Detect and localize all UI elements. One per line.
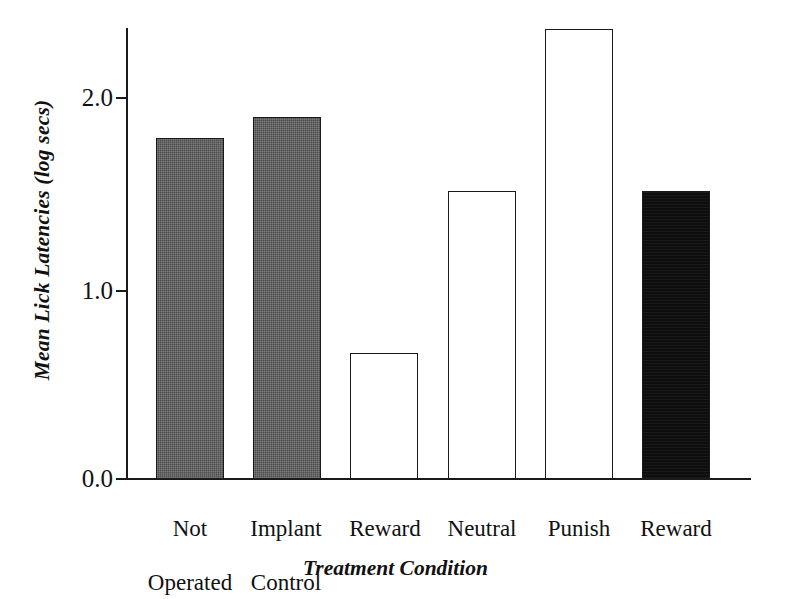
plot-area: 0.0 1.0 2.0 Not Operated Implant Control…: [0, 0, 791, 599]
bar-chart-figure: Mean Lick Latencies (log secs) 0.0 1.0 2…: [0, 0, 791, 599]
y-tick-label-1: 1.0: [53, 278, 113, 303]
y-tick-mark-1: [116, 290, 127, 292]
bar-implant-control: [253, 117, 321, 479]
bar-neutral: [448, 191, 516, 479]
y-tick-1: 1.0: [0, 291, 113, 292]
bar-reward-white: [350, 353, 418, 479]
y-tick-0: 0.0: [0, 479, 113, 480]
y-axis-line: [126, 28, 128, 480]
x-tick-label-line-1: Reward: [616, 515, 736, 542]
bar-punish: [545, 29, 613, 479]
y-tick-2: 2.0: [0, 98, 113, 99]
y-tick-mark-0: [116, 478, 127, 480]
bar-reward-black: [642, 191, 710, 479]
x-axis-title: Treatment Condition: [0, 556, 791, 581]
bar-not-operated: [156, 138, 224, 479]
y-tick-mark-2: [116, 97, 127, 99]
y-tick-label-2: 2.0: [53, 85, 113, 110]
y-tick-label-0: 0.0: [53, 466, 113, 491]
